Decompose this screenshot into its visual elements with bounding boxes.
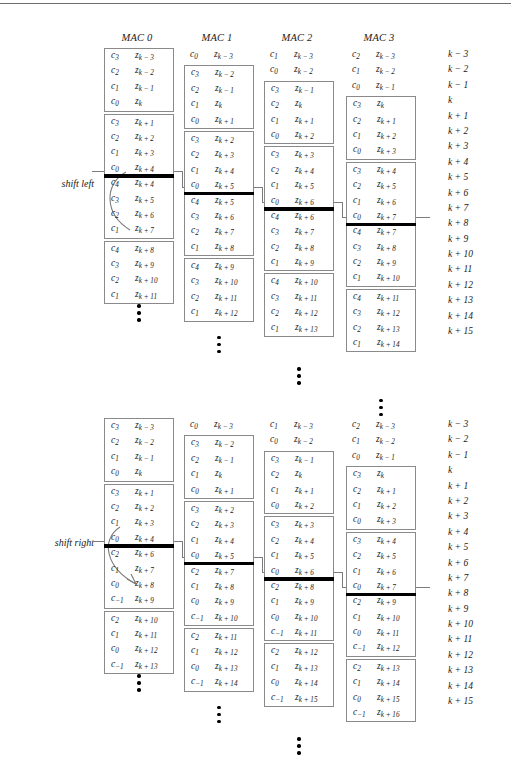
coefficient-label: c1: [353, 337, 361, 347]
sample-label: zk + 8: [215, 580, 234, 590]
time-index: k − 1: [448, 80, 502, 95]
time-index: k + 1: [448, 111, 502, 126]
coefficient-label: c0: [191, 114, 199, 124]
time-index: k + 10: [448, 619, 502, 634]
coefficient-label: c1: [111, 223, 119, 233]
schedule-row: c3zk + 10: [185, 274, 253, 289]
vertical-ellipsis: [184, 706, 254, 727]
coefficient-label: c2: [271, 468, 279, 478]
schedule-row: c3zk + 4: [347, 163, 415, 178]
schedule-row: c−1zk + 11: [265, 625, 333, 640]
time-index: k − 3: [448, 49, 502, 64]
time-index: k + 11: [448, 264, 502, 279]
sample-label: zk + 3: [215, 148, 234, 158]
schedule-row: c1zk + 13: [265, 321, 333, 336]
schedule-row: c1zk + 9: [265, 594, 333, 609]
sample-label: zk − 1: [215, 453, 234, 463]
coefficient-label: c0: [353, 514, 361, 524]
coefficient-label: c4: [191, 195, 199, 205]
coefficient-label: c2: [191, 453, 199, 463]
coefficient-label: c2: [111, 547, 119, 557]
sample-label: zk + 7: [135, 563, 154, 573]
coefficient-label: c2: [353, 549, 361, 559]
sample-label: zk + 3: [295, 148, 314, 158]
time-index: k + 7: [448, 203, 502, 218]
coefficient-label: c3: [111, 258, 119, 268]
schedule-row: c−1zk + 15: [265, 691, 333, 706]
time-index: k + 2: [448, 126, 502, 141]
schedule-group-open: c1zk − 3c0zk − 2: [264, 48, 334, 79]
sample-label: zk + 1: [135, 486, 154, 496]
sample-label: zk + 7: [135, 223, 154, 233]
time-index: k + 14: [448, 311, 502, 326]
coefficient-label: c−1: [353, 641, 366, 651]
sample-label: zk − 2: [215, 437, 234, 447]
transition-bar: [184, 562, 254, 566]
schedule-row: c0zk + 2: [265, 498, 333, 513]
schedule-row: c2zk + 12: [265, 644, 333, 659]
coefficient-label: c3: [111, 116, 119, 126]
sample-label: zk + 11: [377, 291, 399, 301]
sample-label: zk − 2: [135, 435, 154, 445]
schedule-row: c0zk − 1: [346, 79, 416, 94]
coefficient-label: c2: [191, 83, 199, 93]
sample-label: zk + 9: [215, 595, 234, 605]
coefficient-label: c0: [111, 466, 119, 476]
schedule-group-boxed: c3zk − 1c2zkc1zk + 1c0zk + 2: [264, 81, 334, 145]
schedule-row: c0zk + 13: [185, 660, 253, 675]
coefficient-label: c0: [270, 434, 278, 444]
schedule-row: c1zk + 12: [185, 305, 253, 320]
coefficient-label: c0: [271, 195, 279, 205]
schedule-row: c0zk: [105, 465, 173, 480]
coefficient-label: c2: [191, 630, 199, 640]
coefficient-label: c2: [271, 241, 279, 251]
coefficient-label: c0: [191, 549, 199, 559]
vertical-ellipsis: [104, 674, 174, 695]
sample-label: zk + 12: [377, 306, 400, 316]
transition-bar: [346, 223, 416, 227]
running-head: [22, 0, 492, 3]
schedule-row: c2zk + 9: [347, 255, 415, 270]
sample-label: zk: [215, 468, 222, 478]
schedule-row: c3zk + 8: [347, 240, 415, 255]
coefficient-label: c2: [353, 322, 361, 332]
schedule-row: c2zk + 13: [347, 660, 415, 675]
time-index: k + 1: [448, 481, 502, 496]
schedule-row: c1zk + 2: [347, 128, 415, 143]
time-index: k: [448, 95, 502, 110]
coefficient-label: c2: [111, 65, 119, 75]
coefficient-label: c2: [353, 595, 361, 605]
time-index: k + 8: [448, 588, 502, 603]
schedule-row: c−1zk + 16: [347, 706, 415, 721]
mac-header-3: MAC 3: [344, 32, 414, 43]
mac-column-mac-3: c2zk − 3c1zk − 2c0zk − 1c3zkc2zk + 1c1zk…: [346, 48, 416, 352]
sample-label: zk + 11: [377, 626, 399, 636]
schedule-row: c2zk + 10: [105, 272, 173, 287]
sample-label: zk + 1: [215, 114, 234, 124]
mac-column-mac-0: c3zk − 3c2zk − 2c1zk − 1c0zkc3zk + 1c2zk…: [104, 48, 174, 304]
time-index: k − 3: [448, 419, 502, 434]
schedule-row: c2zk + 2: [105, 130, 173, 145]
sample-label: zk: [135, 96, 142, 106]
sample-label: zk + 4: [135, 162, 154, 172]
schedule-row: c0zk + 1: [185, 483, 253, 498]
time-index: k + 4: [448, 527, 502, 542]
schedule-group-boxed: c4zk + 9c3zk + 10c2zk + 11c1zk + 12: [184, 258, 254, 322]
coefficient-label: c−1: [191, 611, 204, 621]
sample-label: zk + 5: [215, 179, 234, 189]
sample-label: zk + 11: [295, 291, 317, 301]
coefficient-label: c1: [111, 516, 119, 526]
sample-label: zk + 13: [377, 661, 400, 671]
schedule-row: c4zk + 6: [265, 209, 333, 224]
sample-label: zk + 2: [215, 503, 234, 513]
sample-label: zk + 6: [377, 195, 396, 205]
transition-bar: [264, 577, 334, 581]
coefficient-label: c1: [353, 676, 361, 686]
schedule-row: c3zk + 12: [347, 305, 415, 320]
sample-label: zk + 9: [215, 260, 234, 270]
sample-label: zk + 12: [215, 306, 238, 316]
schedule-row: c2zk + 11: [185, 629, 253, 644]
schedule-group-boxed: c3zk − 3c2zk − 2c1zk − 1c0zk: [104, 48, 174, 112]
schedule-row: c0zk − 3: [184, 48, 254, 63]
coefficient-label: c1: [270, 419, 278, 429]
